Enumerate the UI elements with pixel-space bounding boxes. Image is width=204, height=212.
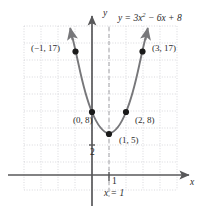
axis-label-x: x <box>190 178 194 188</box>
equation-label: y = 3x2 − 6x + 8 <box>118 14 182 24</box>
y-axis-tick-label-2: 2 <box>90 148 95 158</box>
plot-canvas <box>0 0 204 212</box>
point-label-0-8: (0, 8) <box>73 116 93 125</box>
quadratic-graph-figure: y = 3x2 − 6x + 8 y x (−1, 17) (3, 17) (0… <box>0 0 204 212</box>
curve-arrowhead-left <box>70 28 72 40</box>
curve-arrowhead-right <box>145 28 147 40</box>
equation-lhs: y = 3x <box>118 13 142 23</box>
data-point-neg1-17 <box>72 48 78 54</box>
point-label-vertex-1-5: (1, 5) <box>119 136 139 145</box>
data-point-vertex-1-5 <box>106 131 112 137</box>
equation-rhs: − 6x + 8 <box>146 13 182 23</box>
point-label-neg1-17: (−1, 17) <box>31 44 60 53</box>
point-label-3-17: (3, 17) <box>152 44 176 53</box>
point-label-2-8: (2, 8) <box>135 116 155 125</box>
axis-of-symmetry-label: x = 1 <box>104 189 124 199</box>
data-point-2-8 <box>123 109 129 115</box>
axis-label-y: y <box>103 9 107 19</box>
x-axis-tick-label-1: 1 <box>112 177 117 187</box>
data-point-3-17 <box>139 48 145 54</box>
